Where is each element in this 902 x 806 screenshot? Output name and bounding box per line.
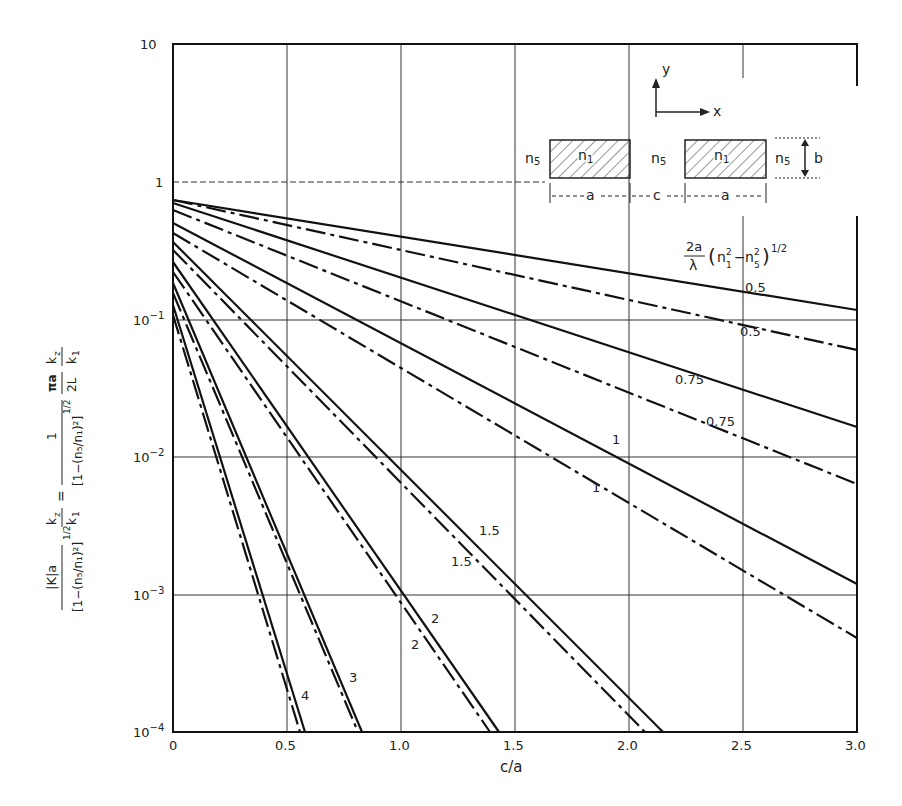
svg-text:2: 2 <box>726 247 732 257</box>
svg-text:n5: n5 <box>525 150 540 167</box>
svg-text:1: 1 <box>45 432 59 440</box>
svg-text:1/2: 1/2 <box>62 400 72 414</box>
svg-text:1: 1 <box>155 175 163 190</box>
svg-text:0.75: 0.75 <box>706 414 735 429</box>
svg-text:0: 0 <box>169 738 177 753</box>
x-ticks: 0 0.5 1.0 1.5 2.0 2.5 3.0 <box>169 738 866 753</box>
svg-text:2.5: 2.5 <box>731 738 752 753</box>
svg-text:a: a <box>721 187 730 203</box>
curve-1.5-dashdot <box>173 250 645 732</box>
svg-text:4: 4 <box>301 688 309 703</box>
svg-text:2.0: 2.0 <box>617 738 638 753</box>
curve-2-solid <box>173 262 499 732</box>
svg-text:10: 10 <box>140 37 157 52</box>
svg-text:1.5: 1.5 <box>451 554 472 569</box>
svg-text:2a: 2a <box>686 239 702 254</box>
svg-text:πa: πa <box>45 374 59 392</box>
inset-diagram: y x n5 n1 n5 n1 n5 b a c a <box>525 61 861 216</box>
svg-text:[1−(n₅/n₁)²]: [1−(n₅/n₁)²] <box>71 542 85 612</box>
svg-text:3: 3 <box>349 670 357 685</box>
svg-text:−: − <box>734 249 746 265</box>
curve-1.5-solid <box>173 242 663 732</box>
svg-text:1.0: 1.0 <box>389 738 410 753</box>
svg-text:1/2: 1/2 <box>771 243 787 254</box>
svg-text:k: k <box>65 518 79 525</box>
svg-text:10−1: 10−1 <box>133 310 164 328</box>
svg-text:5: 5 <box>754 260 760 270</box>
svg-text:1.5: 1.5 <box>479 523 500 538</box>
legend-title: 2a λ ( n 2 1 − n 2 5 ) 1/2 <box>684 239 787 273</box>
svg-text:1: 1 <box>592 480 600 495</box>
svg-text:0.5: 0.5 <box>275 738 296 753</box>
svg-text:n: n <box>745 249 754 265</box>
svg-text:0.5: 0.5 <box>745 280 766 295</box>
svg-text:0.75: 0.75 <box>675 372 704 387</box>
svg-text:k: k <box>45 357 59 364</box>
curve-labels: 0.5 0.5 0.75 0.75 1 1 1.5 1.5 2 2 3 4 <box>301 280 766 703</box>
svg-text:=: = <box>53 490 69 502</box>
svg-text:1: 1 <box>612 432 620 447</box>
svg-text:10−3: 10−3 <box>133 585 164 603</box>
curve-3-dashdot <box>173 293 358 732</box>
curve-4-dashdot <box>173 315 300 732</box>
svg-text:): ) <box>762 244 770 268</box>
svg-text:2: 2 <box>411 637 419 652</box>
svg-text:1: 1 <box>726 260 732 270</box>
y-ticks: 10 1 10−1 10−2 10−3 10−4 <box>133 37 164 740</box>
svg-text:10−2: 10−2 <box>133 447 164 465</box>
svg-text:[1−(n₅/n₁)²]: [1−(n₅/n₁)²] <box>71 416 85 486</box>
x-axis-label: c/a <box>500 758 523 776</box>
curve-3-solid <box>173 283 362 732</box>
svg-text:b: b <box>814 150 823 166</box>
svg-text:1/2: 1/2 <box>62 526 72 540</box>
svg-text:a: a <box>586 187 595 203</box>
svg-text:z: z <box>52 351 62 356</box>
svg-text:1: 1 <box>71 350 81 356</box>
svg-text:1.5: 1.5 <box>503 738 524 753</box>
svg-text:0.5: 0.5 <box>740 324 761 339</box>
curve-2-dashdot <box>173 272 490 732</box>
svg-text:x: x <box>713 103 721 119</box>
y-axis-label: |K|a [1−(n₅/n₁)²] 1/2 kz k1 = 1 [1−(n₅/n… <box>44 347 85 612</box>
svg-text:3.0: 3.0 <box>845 738 866 753</box>
svg-text:|K|a: |K|a <box>44 565 59 590</box>
svg-text:1: 1 <box>71 511 81 517</box>
svg-text:2L: 2L <box>65 377 79 392</box>
svg-text:(: ( <box>708 244 716 268</box>
svg-text:10−4: 10−4 <box>133 722 164 740</box>
svg-text:k: k <box>45 518 59 525</box>
svg-text:λ: λ <box>689 257 697 273</box>
chart: 0.5 0.5 0.75 0.75 1 1 1.5 1.5 2 2 3 4 2a… <box>0 0 902 806</box>
svg-text:2: 2 <box>754 247 760 257</box>
svg-text:2: 2 <box>431 611 439 626</box>
svg-text:n: n <box>717 249 726 265</box>
svg-text:z: z <box>52 512 62 517</box>
svg-text:c: c <box>653 187 661 203</box>
svg-text:k: k <box>65 357 79 364</box>
svg-text:y: y <box>662 61 670 77</box>
